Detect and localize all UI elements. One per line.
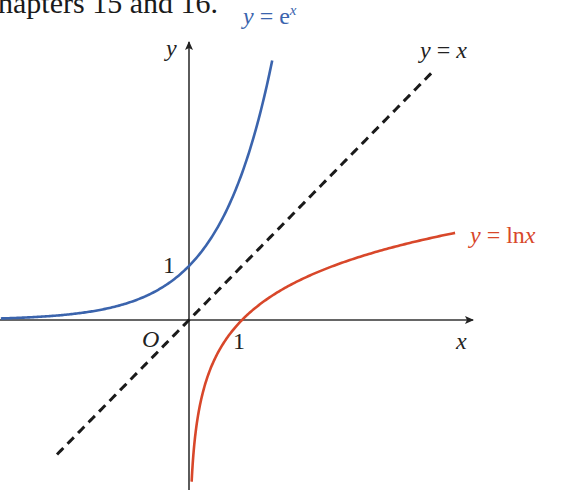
axes xyxy=(0,42,473,490)
series-layer xyxy=(1,60,455,481)
graph-plot: y x O 1 1 y = ex y = x y = lnx xyxy=(0,0,562,498)
series-y-e-x xyxy=(1,60,272,318)
x-tick-label-1: 1 xyxy=(233,328,245,354)
y-tick-label-1: 1 xyxy=(163,252,175,278)
origin-label: O xyxy=(142,326,159,352)
series-y-x xyxy=(57,73,431,454)
y-axis-label: y xyxy=(164,35,177,61)
series-y-ln-x xyxy=(192,233,455,482)
x-axis-label: x xyxy=(455,328,467,354)
ln-curve-label: y = lnx xyxy=(468,222,536,248)
exp-curve-label: y = ex xyxy=(241,2,297,29)
identity-line-label: y = x xyxy=(418,37,467,63)
